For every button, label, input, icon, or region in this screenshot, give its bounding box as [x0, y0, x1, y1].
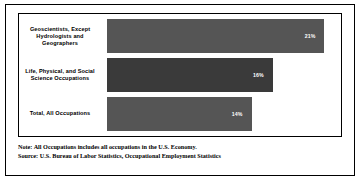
- bar-total-all-occupations: 14%: [107, 97, 252, 131]
- bar-rows-container: Geoscientists, Except Hydrologists and G…: [18, 13, 342, 137]
- category-label-life-physical-social-science: Life, Physical, and Social Science Occup…: [18, 68, 107, 82]
- bar-geoscientists: 21%: [107, 19, 324, 53]
- source-text: Source: U.S. Bureau of Labor Statistics,…: [18, 151, 348, 160]
- bar-track: 21%: [107, 19, 342, 53]
- bar-chart-figure: Geoscientists, Except Hydrologists and G…: [0, 0, 360, 180]
- bar-life-physical-social-science: 16%: [107, 58, 273, 92]
- category-label-total-all-occupations: Total, All Occupations: [18, 110, 107, 117]
- bar-track: 16%: [107, 58, 342, 92]
- footnotes-block: Note: All Occupations includes all occup…: [18, 142, 348, 160]
- bar-track: 14%: [107, 97, 342, 131]
- bar-value-label: 16%: [253, 72, 273, 78]
- bar-row: Life, Physical, and Social Science Occup…: [18, 58, 342, 92]
- note-text: Note: All Occupations includes all occup…: [18, 142, 348, 151]
- bar-row: Geoscientists, Except Hydrologists and G…: [18, 19, 342, 53]
- bar-row: Total, All Occupations 14%: [18, 97, 342, 131]
- bar-value-label: 21%: [305, 33, 325, 39]
- bar-value-label: 14%: [232, 111, 252, 117]
- category-label-geoscientists: Geoscientists, Except Hydrologists and G…: [18, 26, 107, 48]
